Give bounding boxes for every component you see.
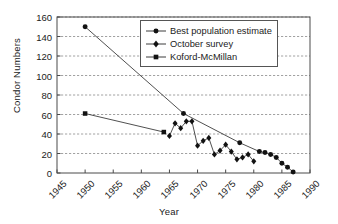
data-point-circle (181, 111, 186, 116)
y-tick-label: 100 (22, 70, 52, 81)
data-point-square (83, 111, 88, 116)
data-point-diamond (240, 154, 245, 160)
data-point-diamond (195, 143, 200, 149)
data-point-diamond (201, 138, 206, 144)
data-point-circle (285, 165, 290, 170)
legend-marker-circle-icon (145, 25, 167, 37)
data-point-square (154, 54, 159, 59)
condor-population-chart: Condor Numbers Year 02040608010012014016… (0, 0, 338, 224)
y-tick-label: 160 (22, 12, 52, 23)
data-point-circle (268, 152, 273, 157)
data-point-diamond (173, 120, 178, 126)
series-line (85, 114, 164, 133)
data-point-circle (257, 149, 262, 154)
y-axis-title: Condor Numbers (11, 21, 22, 131)
y-tick-label: 0 (22, 168, 52, 179)
chart-legend: Best population estimateOctober surveyKo… (140, 20, 278, 67)
y-tick-label: 60 (22, 109, 52, 120)
data-point-circle (291, 170, 296, 175)
legend-label-0: Best population estimate (170, 26, 272, 36)
data-point-circle (279, 161, 284, 166)
legend-marker-square-icon (145, 51, 167, 63)
data-point-circle (237, 140, 242, 145)
data-point-circle (83, 24, 88, 29)
y-tick-label: 140 (22, 31, 52, 42)
legend-item-0: Best population estimate (145, 24, 272, 37)
data-point-circle (263, 150, 268, 155)
series-diamond (167, 118, 256, 164)
legend-item-2: Koford-McMillan (145, 50, 272, 63)
y-tick-label: 20 (22, 148, 52, 159)
y-tick-label: 80 (22, 90, 52, 101)
x-axis-title: Year (0, 206, 338, 217)
data-point-diamond (153, 40, 158, 47)
legend-marker-diamond-icon (145, 38, 167, 50)
data-point-square (162, 130, 167, 135)
y-tick-label: 40 (22, 129, 52, 140)
legend-item-1: October survey (145, 37, 272, 50)
data-point-diamond (212, 151, 217, 157)
y-tick-label: 120 (22, 51, 52, 62)
legend-label-1: October survey (170, 39, 233, 49)
data-point-diamond (206, 135, 211, 141)
data-point-diamond (167, 133, 172, 139)
data-point-circle (154, 28, 159, 33)
data-point-circle (274, 155, 279, 160)
legend-label-2: Koford-McMillan (170, 52, 237, 62)
